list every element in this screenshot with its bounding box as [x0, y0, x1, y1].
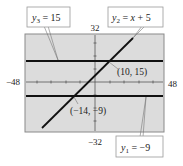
- y-min-label: −32: [88, 137, 102, 147]
- x-min-label: −48: [6, 77, 21, 87]
- x-max-label: 48: [168, 79, 178, 89]
- intersection-label-1: (10, 15): [117, 67, 147, 78]
- callout-y2: y2 = x + 5: [108, 7, 163, 38]
- intersection-label-2: (−14, −9): [70, 106, 106, 117]
- graph-figure: 32 −32 −48 48 y3 = 15 y2 = x + 5 y1 = −9…: [0, 0, 183, 166]
- y-max-label: 32: [91, 23, 100, 33]
